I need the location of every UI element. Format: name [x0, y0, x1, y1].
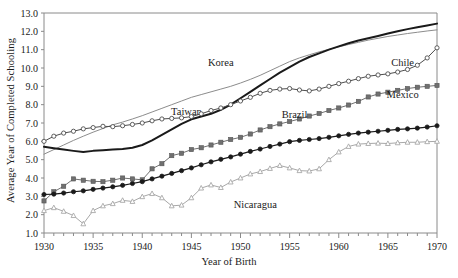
- marker-point: [238, 99, 242, 103]
- marker-point: [435, 83, 439, 87]
- marker-point: [62, 191, 66, 195]
- marker-point: [386, 128, 390, 132]
- x-tick-label: 1950: [231, 241, 251, 252]
- marker-point: [425, 125, 429, 129]
- marker-point: [160, 174, 164, 178]
- marker-point: [415, 140, 420, 145]
- marker-point: [425, 56, 429, 60]
- marker-point: [317, 136, 321, 140]
- x-tick-label: 1970: [427, 241, 447, 252]
- marker-point: [327, 84, 331, 88]
- marker-point: [71, 129, 75, 133]
- marker-point: [396, 127, 400, 131]
- marker-point: [268, 125, 272, 129]
- marker-point: [229, 103, 233, 107]
- marker-point: [140, 180, 144, 184]
- y-tick-label: 9.0: [26, 81, 39, 92]
- x-tick-label: 1930: [34, 241, 54, 252]
- marker-point: [170, 154, 174, 158]
- marker-point: [336, 149, 341, 154]
- marker-point: [366, 141, 371, 146]
- y-tick-label: 4.0: [26, 173, 39, 184]
- marker-point: [81, 189, 85, 193]
- marker-point: [415, 126, 419, 130]
- marker-point: [61, 209, 66, 214]
- marker-point: [71, 213, 76, 218]
- marker-point: [376, 129, 380, 133]
- y-tick-label: 10.0: [21, 63, 39, 74]
- marker-point: [248, 95, 252, 99]
- y-tick-label: 13.0: [21, 8, 39, 19]
- marker-point: [268, 144, 272, 148]
- marker-point: [435, 139, 440, 144]
- marker-point: [170, 171, 174, 175]
- marker-point: [160, 117, 164, 121]
- marker-point: [278, 87, 282, 91]
- marker-point: [415, 63, 419, 67]
- marker-point: [288, 140, 292, 144]
- series-label-korea: Korea: [208, 57, 234, 68]
- marker-point: [435, 46, 439, 50]
- marker-point: [229, 155, 233, 159]
- marker-point: [121, 176, 125, 180]
- marker-point: [81, 127, 85, 131]
- marker-point: [62, 184, 66, 188]
- marker-point: [111, 178, 115, 182]
- series-label-brazil: Brazil: [282, 109, 308, 120]
- marker-point: [52, 134, 56, 138]
- x-tick-label: 1955: [280, 241, 300, 252]
- marker-point: [317, 87, 321, 91]
- marker-point: [209, 108, 213, 112]
- marker-point: [189, 166, 193, 170]
- marker-point: [258, 91, 262, 95]
- y-tick-label: 5.0: [26, 154, 39, 165]
- marker-point: [346, 79, 350, 83]
- x-axis-label: Year of Birth: [0, 256, 458, 267]
- marker-point: [189, 114, 193, 118]
- marker-point: [101, 124, 105, 128]
- marker-point: [219, 106, 223, 110]
- marker-point: [71, 177, 75, 181]
- marker-point: [405, 140, 410, 145]
- marker-point: [288, 86, 292, 90]
- marker-point: [337, 134, 341, 138]
- marker-point: [42, 208, 47, 213]
- marker-point: [376, 92, 380, 96]
- marker-point: [386, 72, 390, 76]
- marker-point: [435, 124, 439, 128]
- marker-point: [51, 205, 56, 210]
- marker-point: [150, 191, 155, 196]
- marker-point: [356, 141, 361, 146]
- chart-figure: Average Year of Completed Schooling 1.02…: [0, 0, 458, 278]
- marker-point: [121, 124, 125, 128]
- marker-point: [425, 84, 429, 88]
- marker-point: [179, 151, 183, 155]
- marker-point: [91, 125, 95, 129]
- marker-point: [160, 195, 165, 200]
- marker-point: [62, 131, 66, 135]
- x-tick-label: 1935: [83, 241, 103, 252]
- marker-point: [405, 127, 409, 131]
- marker-point: [170, 116, 174, 120]
- marker-point: [42, 199, 46, 203]
- marker-point: [160, 162, 164, 166]
- marker-point: [297, 168, 302, 173]
- marker-point: [150, 167, 154, 171]
- marker-point: [277, 163, 282, 168]
- marker-point: [268, 88, 272, 92]
- marker-point: [366, 74, 370, 78]
- marker-point: [120, 198, 125, 203]
- series-label-nicaragua: Nicaragua: [234, 199, 277, 210]
- marker-point: [199, 146, 203, 150]
- marker-point: [218, 185, 223, 190]
- marker-point: [258, 169, 263, 174]
- marker-point: [278, 122, 282, 126]
- y-tick-label: 1.0: [26, 228, 39, 239]
- marker-point: [179, 203, 184, 208]
- y-tick-label: 11.0: [21, 44, 38, 55]
- marker-point: [238, 152, 242, 156]
- marker-point: [111, 125, 115, 129]
- x-tick-label: 1960: [329, 241, 349, 252]
- marker-point: [101, 203, 106, 208]
- marker-point: [130, 122, 134, 126]
